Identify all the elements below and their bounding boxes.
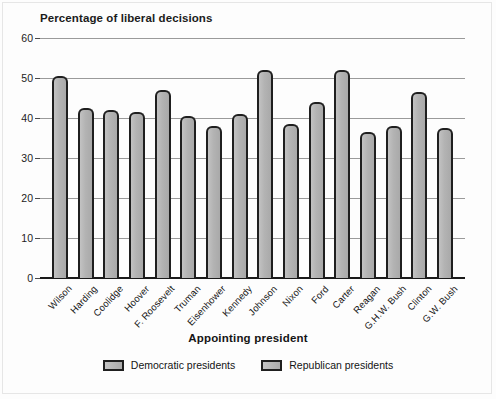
- bar: [386, 126, 402, 278]
- plot-area: 0102030405060: [40, 38, 465, 278]
- bar-slot: [47, 38, 73, 278]
- bar: [103, 110, 119, 278]
- y-tick-label: 30: [21, 152, 33, 164]
- bar-slot: [253, 38, 279, 278]
- bar: [309, 102, 325, 278]
- x-label-slot: Coolidge: [98, 280, 124, 338]
- x-axis-labels: WilsonHardingCoolidgeHooverF. RooseveltT…: [40, 280, 465, 338]
- x-label-slot: G.W. Bush: [432, 280, 458, 338]
- bar: [257, 70, 273, 278]
- bar: [360, 132, 376, 278]
- x-axis-title: Appointing president: [0, 332, 496, 344]
- bar-slot: [150, 38, 176, 278]
- x-label-slot: Ford: [304, 280, 330, 338]
- bar-slot: [304, 38, 330, 278]
- x-label-slot: F. Roosevelt: [150, 280, 176, 338]
- bar-slot: [98, 38, 124, 278]
- y-tick-label: 20: [21, 192, 33, 204]
- x-label-slot: Nixon: [278, 280, 304, 338]
- bar: [155, 90, 171, 278]
- bar: [129, 112, 145, 278]
- bar-slot: [355, 38, 381, 278]
- bar: [283, 124, 299, 278]
- bar-slot: [407, 38, 433, 278]
- chart-title: Percentage of liberal decisions: [40, 12, 212, 24]
- y-tick-label: 10: [21, 232, 33, 244]
- y-tick-label: 50: [21, 72, 33, 84]
- x-tick-label: Ford: [309, 283, 331, 305]
- bar-slot: [278, 38, 304, 278]
- x-label-slot: G.H.W. Bush: [381, 280, 407, 338]
- bar-slot: [330, 38, 356, 278]
- bar-slot: [175, 38, 201, 278]
- bar: [334, 70, 350, 278]
- bar: [411, 92, 427, 278]
- bar: [180, 116, 196, 278]
- y-tick-label: 60: [21, 32, 33, 44]
- legend-swatch: [261, 360, 282, 371]
- legend-label: Democratic presidents: [131, 359, 235, 371]
- legend-label: Republican presidents: [289, 359, 393, 371]
- bar-slot: [124, 38, 150, 278]
- bar-slot: [381, 38, 407, 278]
- y-tick-label: 0: [27, 272, 33, 284]
- legend-item: Republican presidents: [261, 359, 393, 371]
- bar-slot: [227, 38, 253, 278]
- bar-slot: [73, 38, 99, 278]
- bar: [232, 114, 248, 278]
- bar-series: [40, 38, 465, 278]
- bar: [206, 126, 222, 278]
- chart-figure: Percentage of liberal decisions 01020304…: [0, 0, 496, 399]
- y-tick-label: 40: [21, 112, 33, 124]
- bar-slot: [201, 38, 227, 278]
- bar: [437, 128, 453, 278]
- legend-swatch: [103, 360, 124, 371]
- bar-slot: [432, 38, 458, 278]
- legend-item: Democratic presidents: [103, 359, 235, 371]
- chart-legend: Democratic presidentsRepublican presiden…: [0, 359, 496, 371]
- x-label-slot: Johnson: [253, 280, 279, 338]
- x-tick-label: Nixon: [280, 283, 305, 309]
- bar: [52, 76, 68, 278]
- bar: [78, 108, 94, 278]
